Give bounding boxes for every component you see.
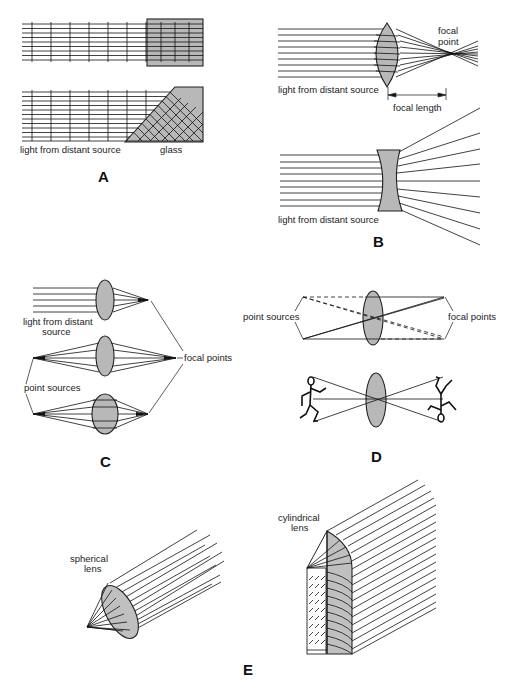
label-focal-point-1: focal — [438, 25, 458, 36]
label-cylindrical-2: lens — [291, 522, 309, 533]
panel-b: focal point light from distant source fo… — [278, 23, 480, 250]
optics-diagram: light from distant source glass A — [0, 0, 516, 689]
diverging-lens-setup: light from distant source — [278, 108, 480, 245]
cylindrical-lens-setup — [307, 480, 436, 654]
label-glass: glass — [160, 144, 182, 155]
panel-label-e: E — [243, 661, 253, 678]
label-point-sources-c: point sources — [24, 382, 81, 393]
label-light-source-b-top: light from distant source — [278, 84, 379, 95]
panel-label-c: C — [100, 453, 111, 470]
lens-c2 — [96, 336, 114, 376]
panel-c-lens-thick — [33, 394, 148, 434]
concave-lens — [377, 150, 402, 211]
panel-e: spherical lens — [70, 480, 436, 678]
label-focal-length: focal length — [393, 102, 442, 113]
focal-length-marker — [388, 87, 446, 100]
label-light-source-b-bottom: light from distant source — [278, 214, 379, 225]
panel-c: light from distant source — [23, 280, 232, 470]
label-focal-point-2: point — [438, 36, 459, 47]
label-focal-points-c: focal points — [184, 352, 232, 363]
panel-d: point sources focal points — [243, 291, 496, 465]
label-point-sources-d: point sources — [243, 311, 300, 322]
converging-lens-setup: focal point light from distant source fo… — [278, 23, 478, 113]
panel-label-b: B — [373, 233, 384, 250]
label-focal-points-d: focal points — [448, 311, 496, 322]
cylindrical-lens — [327, 531, 352, 654]
panel-a: light from distant source glass A — [20, 19, 203, 185]
lens-c1 — [96, 280, 114, 320]
label-light-source-a: light from distant source — [20, 144, 121, 155]
label-light-source-c-2: source — [42, 326, 71, 337]
panel-a-prism-block — [22, 87, 203, 142]
panel-label-a: A — [98, 168, 109, 185]
stick-figure-image — [428, 377, 456, 422]
panel-d-image-inversion — [300, 373, 456, 427]
label-spherical-2: lens — [84, 563, 102, 574]
panel-d-lens-rays — [295, 291, 453, 345]
panel-c-lens-symmetric — [33, 336, 176, 376]
spherical-lens-setup — [87, 530, 224, 644]
panel-c-lens-distant — [33, 280, 150, 320]
panel-a-rect-block — [22, 19, 203, 66]
panel-label-d: D — [371, 448, 382, 465]
